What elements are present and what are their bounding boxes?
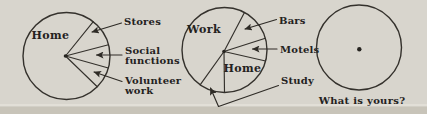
callout-label: Stores (124, 16, 161, 27)
callout-label: functions (125, 55, 180, 66)
callout-label: Motels (280, 44, 320, 55)
pie-center-dot (64, 54, 68, 58)
callout-label: work (124, 85, 154, 96)
callout-label: Study (281, 75, 315, 86)
pie-charts-figure: HomeStoresSocialfunctionsVolunteerworkWo… (0, 0, 427, 114)
slice-label: Work (186, 23, 221, 36)
slice-label: Home (32, 29, 70, 42)
pie-charts-canvas: HomeStoresSocialfunctionsVolunteerworkWo… (0, 0, 427, 114)
slice-label: Home (224, 62, 262, 75)
pie-center-dot (222, 50, 226, 54)
callout-label: Bars (279, 15, 306, 26)
figure-caption: What is yours? (318, 95, 406, 106)
page-edge-shadow (0, 107, 427, 115)
pie-center-dot (357, 47, 361, 51)
